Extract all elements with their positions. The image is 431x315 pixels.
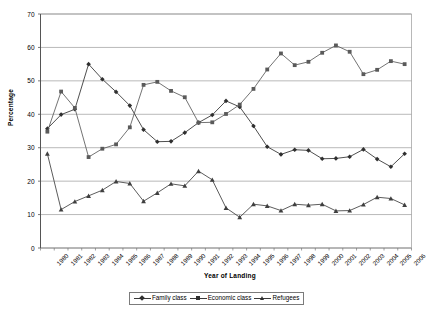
data-point-marker — [100, 188, 105, 192]
legend-label: Refugees — [272, 294, 299, 302]
y-tick-label: 70 — [13, 11, 35, 18]
data-point-marker — [375, 68, 379, 72]
data-point-marker — [59, 90, 63, 94]
plot-area — [0, 0, 431, 315]
data-point-marker — [87, 155, 91, 159]
data-point-marker — [361, 202, 366, 206]
chart-legend: Family classEconomic classRefugees — [129, 292, 304, 305]
data-point-marker — [128, 125, 132, 129]
data-point-marker — [252, 87, 256, 91]
data-point-marker — [279, 152, 284, 157]
legend-label: Family class — [152, 294, 187, 302]
data-point-marker — [114, 142, 118, 146]
legend-item-economic-class[interactable]: Economic class — [190, 294, 252, 302]
data-point-marker — [155, 190, 160, 194]
triangle-marker-icon — [254, 294, 271, 302]
data-point-marker — [279, 52, 283, 56]
data-point-marker — [73, 106, 77, 110]
y-tick-label: 40 — [13, 111, 35, 118]
data-point-marker — [196, 169, 201, 173]
data-point-marker — [45, 151, 50, 155]
data-point-marker — [59, 207, 64, 211]
data-point-marker — [292, 147, 297, 152]
data-point-marker — [183, 95, 187, 99]
data-point-marker — [169, 139, 174, 144]
legend-item-family-class[interactable]: Family class — [134, 294, 187, 302]
data-point-marker — [224, 205, 229, 209]
data-point-marker — [210, 177, 215, 181]
data-point-marker — [155, 80, 159, 84]
data-point-marker — [210, 120, 214, 124]
data-point-marker — [389, 59, 393, 63]
y-tick-label: 30 — [13, 144, 35, 151]
data-point-marker — [72, 199, 77, 203]
y-tick-label: 20 — [13, 178, 35, 185]
data-point-marker — [307, 60, 311, 64]
data-point-marker — [265, 144, 270, 149]
line-chart: Percentage Year of Landing 0102030405060… — [0, 0, 431, 315]
y-tick-label: 50 — [13, 77, 35, 84]
data-point-marker — [306, 148, 311, 153]
square-marker-icon — [190, 294, 207, 302]
data-point-marker — [169, 89, 173, 93]
y-tick-label: 60 — [13, 44, 35, 51]
data-point-marker — [320, 156, 325, 161]
data-point-marker — [362, 72, 366, 76]
data-point-marker — [197, 121, 201, 125]
data-point-marker — [293, 63, 297, 67]
data-point-marker — [100, 147, 104, 151]
data-point-marker — [402, 202, 407, 206]
diamond-marker-icon — [134, 294, 151, 302]
x-axis-title: Year of Landing — [140, 272, 320, 279]
data-point-marker — [45, 130, 49, 134]
data-point-marker — [265, 68, 269, 72]
data-point-marker — [347, 154, 352, 159]
legend-item-refugees[interactable]: Refugees — [254, 294, 299, 302]
data-point-marker — [334, 44, 338, 48]
data-point-marker — [224, 112, 228, 116]
data-point-marker — [238, 103, 242, 107]
data-point-marker — [348, 50, 352, 54]
legend-label: Economic class — [208, 294, 252, 302]
data-point-marker — [86, 193, 91, 197]
y-tick-label: 0 — [13, 245, 35, 252]
data-point-marker — [403, 62, 407, 66]
y-tick-label: 10 — [13, 211, 35, 218]
data-point-marker — [142, 83, 146, 87]
data-point-marker — [320, 51, 324, 55]
data-point-marker — [334, 156, 339, 161]
